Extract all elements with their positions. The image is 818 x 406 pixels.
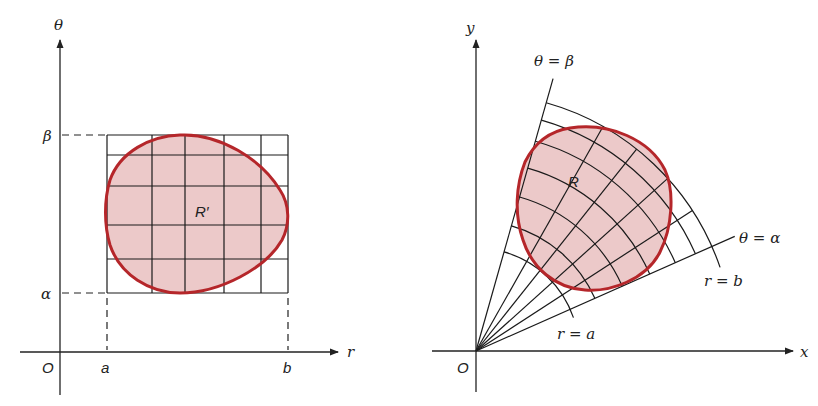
theta-alpha-label: θ = α: [739, 229, 780, 247]
b-tick-label: b: [283, 359, 291, 376]
theta-beta-label: θ = β: [534, 52, 574, 70]
origin-label: O: [457, 359, 469, 376]
left-panel: θ r O β α a b R′: [20, 16, 355, 395]
r-equals-a-label: r = a: [557, 325, 595, 343]
y-axis-label: y: [465, 19, 475, 37]
region-r-prime-label: R′: [195, 203, 210, 220]
origin-label: O: [42, 359, 54, 376]
region-r-label: R: [568, 173, 579, 190]
r-equals-b-label: r = b: [704, 272, 743, 290]
a-tick-label: a: [101, 359, 109, 376]
figure-canvas: θ r O β α a b R′ y x O θ = β θ = α r = b…: [0, 0, 818, 406]
region-r-fill: [517, 127, 671, 290]
alpha-tick-label: α: [41, 285, 51, 303]
right-panel: y x O θ = β θ = α r = b r = a R: [432, 19, 809, 392]
x-axis-label: x: [800, 343, 809, 361]
theta-axis-label: θ: [54, 16, 63, 34]
beta-tick-label: β: [42, 127, 52, 145]
r-axis-label: r: [347, 343, 355, 361]
